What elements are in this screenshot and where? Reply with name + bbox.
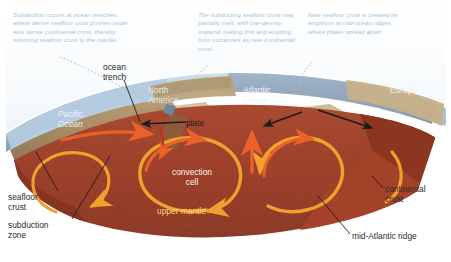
annotation-melting: The subducting seafloor crust may partia… <box>198 11 304 53</box>
label-pacific-ocean: Pacific Ocean <box>58 110 83 129</box>
label-subduction-zone: subduction zone <box>8 221 49 240</box>
label-atlantic-ocean: Atlantic Ocean <box>243 86 270 105</box>
annotation-new-crust: New seafloor crust is created by eruptio… <box>308 11 404 36</box>
label-ocean-trench: ocean trench <box>103 63 126 82</box>
plate-tectonics-diagram: Subduction occurs at ocean trenches, whe… <box>0 0 451 262</box>
label-north-america: North America <box>148 86 179 105</box>
label-seafloor-crust: seafloor crust <box>8 193 38 212</box>
label-mid-atlantic-ridge: mid-Atlantic ridge <box>352 232 417 242</box>
label-upper-mantle: upper mantle <box>157 207 206 217</box>
annotation-subduction: Subduction occurs at ocean trenches, whe… <box>13 11 131 45</box>
label-continental-crust: continental crust <box>385 185 426 204</box>
label-convection-cell: convection cell <box>159 168 225 187</box>
label-europe: Europe <box>390 86 417 96</box>
label-plate: plate <box>186 119 204 129</box>
